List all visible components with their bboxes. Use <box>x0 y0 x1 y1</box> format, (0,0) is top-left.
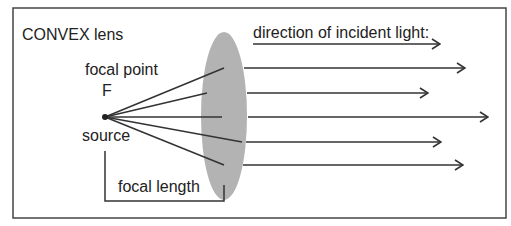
source-label: source <box>82 127 130 144</box>
incident-light-label: direction of incident light: <box>253 24 429 41</box>
focal-length-label: focal length <box>118 178 200 195</box>
convex-lens-diagram: CONVEX lens focal point F source focal l… <box>0 0 511 226</box>
diagram-title: CONVEX lens <box>22 26 123 43</box>
parallel-rays <box>243 68 488 165</box>
focal-point-label: focal point <box>85 61 158 78</box>
convex-lens <box>201 32 247 200</box>
source-point <box>102 114 108 120</box>
focal-point-symbol: F <box>102 82 112 99</box>
